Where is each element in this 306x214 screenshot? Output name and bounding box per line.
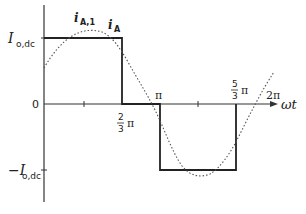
- label-two-thirds-pi: π: [127, 117, 134, 130]
- label-five-thirds-pi: π: [241, 84, 248, 97]
- waveform-diagram: I o,dc −I o,dc 0 i A,1 i A 2 3 π π 5 3 π…: [0, 0, 306, 214]
- label-two-thirds-num: 2: [118, 112, 124, 122]
- label-io-dc-sub: o,dc: [16, 39, 35, 49]
- label-iA1-sub: A,1: [80, 18, 95, 27]
- label-iA: i: [108, 18, 113, 32]
- label-iA-sub: A: [114, 25, 121, 34]
- label-neg-io-dc-sub: o,dc: [22, 171, 41, 181]
- label-omega-t: ωt: [281, 97, 298, 112]
- label-five-thirds-num: 5: [232, 79, 238, 89]
- label-io-dc: I: [7, 30, 14, 46]
- label-iA1: i: [74, 11, 79, 25]
- label-zero: 0: [32, 98, 39, 111]
- label-pi: π: [155, 89, 162, 102]
- label-two-thirds-den: 3: [118, 124, 124, 134]
- label-five-thirds-den: 3: [232, 91, 238, 101]
- label-two-pi: 2π: [266, 89, 280, 102]
